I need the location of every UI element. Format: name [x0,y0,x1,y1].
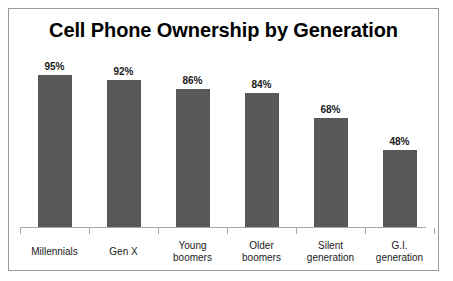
bar-value-label: 84% [227,79,296,90]
bar [176,89,210,227]
axis-tick [434,228,435,234]
bar-column: 84% [227,52,296,227]
axis-tick [296,228,297,234]
category-label-line: Gen X [89,246,158,258]
category-label-line: Silent [296,240,365,252]
bar [245,93,279,227]
bar-column: 92% [89,52,158,227]
bar [38,75,72,227]
axis-tick [20,228,21,234]
bar-group: 92% [89,52,158,227]
bar-column: 86% [158,52,227,227]
bar-group: 95% [20,52,89,227]
category-label-line: Millennials [20,246,89,258]
bar-group: 84% [227,52,296,227]
category-label-line: generation [365,252,434,264]
axis-tick [158,228,159,234]
bar-value-label: 86% [158,75,227,86]
bar-value-label: 92% [89,66,158,77]
bar-group: 48% [365,52,434,227]
axis-tick [227,228,228,234]
bar [383,150,417,227]
category-label-line: boomers [158,252,227,264]
category-label: Gen X [89,246,158,258]
plot-area: 95%92%86%84%68%48% MillennialsGen XYoung… [9,9,438,270]
category-label-line: Older [227,240,296,252]
category-label: Olderboomers [227,240,296,264]
bar-value-label: 48% [365,136,434,147]
bar-group: 86% [158,52,227,227]
category-label: G.I.generation [365,240,434,264]
axis-tick [365,228,366,234]
category-label-line: boomers [227,252,296,264]
category-label-line: Young [158,240,227,252]
bar-value-label: 95% [20,61,89,72]
category-label-line: generation [296,252,365,264]
bar-value-label: 68% [296,104,365,115]
category-label: Millennials [20,246,89,258]
category-label-line: G.I. [365,240,434,252]
bar-group: 68% [296,52,365,227]
category-label: Youngboomers [158,240,227,264]
bar [107,80,141,227]
chart-frame: Cell Phone Ownership by Generation 95%92… [8,8,439,271]
axis-tick [89,228,90,234]
bar-column: 95% [20,52,89,227]
bar [314,118,348,227]
bar-column: 48% [365,52,434,227]
category-label: Silentgeneration [296,240,365,264]
bar-column: 68% [296,52,365,227]
